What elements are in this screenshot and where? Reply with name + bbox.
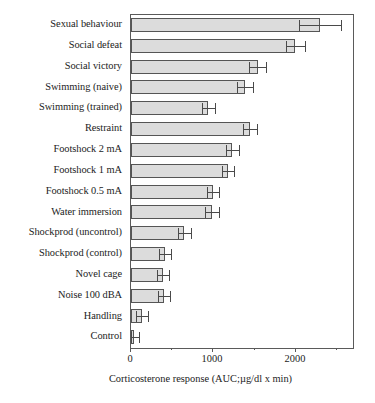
x-axis-ticklabel-2000: 2000	[285, 354, 306, 364]
bar-row	[131, 182, 353, 203]
error-bar-cap-upper	[191, 228, 192, 239]
bar-row	[131, 306, 353, 327]
y-axis-category-labels: Sexual behaviour Social defeat Social vi…	[0, 14, 126, 347]
error-bar-cap-upper	[148, 311, 149, 322]
error-bar-cap-lower	[159, 249, 160, 260]
bar	[131, 101, 208, 115]
bar-row	[131, 265, 353, 286]
bar-row	[131, 98, 353, 119]
error-bar-cap-lower	[178, 228, 179, 239]
error-bar-cap-upper	[139, 332, 140, 343]
x-axis-line	[130, 348, 353, 349]
y-axis-label-9: Water immersion	[0, 201, 126, 222]
x-axis-tick-minor-500	[171, 348, 172, 350]
x-axis-tick-2000	[295, 348, 296, 352]
error-bar-cap-upper	[170, 291, 171, 302]
error-bar-cap-lower	[136, 311, 137, 322]
bar-row	[131, 140, 353, 161]
y-axis-label-15: Control	[0, 326, 126, 347]
bar	[131, 185, 213, 199]
bar-row	[131, 223, 353, 244]
error-bar-line	[202, 108, 215, 109]
plot-area	[130, 14, 354, 349]
error-bar-cap-lower	[286, 41, 287, 52]
bars-layer	[131, 15, 353, 348]
error-bar-line	[136, 316, 148, 317]
y-axis-label-11: Shockprod (control)	[0, 243, 126, 264]
error-bar-cap-upper	[239, 145, 240, 156]
bar	[131, 226, 184, 240]
x-axis-ticklabel-1000: 1000	[202, 354, 223, 364]
error-bar-cap-lower	[157, 270, 158, 281]
error-bar-cap-lower	[243, 124, 244, 135]
bar	[131, 164, 228, 178]
error-bar-line	[226, 150, 239, 151]
error-bar-cap-lower	[299, 20, 300, 31]
bar-row	[131, 36, 353, 57]
y-axis-label-1: Social defeat	[0, 35, 126, 56]
error-bar-line	[237, 87, 253, 88]
error-bar-cap-upper	[171, 249, 172, 260]
error-bar-line	[286, 46, 305, 47]
y-axis-label-0: Sexual behaviour	[0, 14, 126, 35]
x-axis-tick-0	[130, 348, 131, 352]
bar	[131, 39, 295, 53]
y-axis-label-5: Restraint	[0, 118, 126, 139]
bar-row	[131, 15, 353, 36]
bar	[131, 205, 212, 219]
y-axis-label-7: Footshock 1 mA	[0, 160, 126, 181]
error-bar-cap-lower	[202, 103, 203, 114]
bar	[131, 60, 258, 74]
bar	[131, 143, 232, 157]
error-bar-line	[158, 296, 170, 297]
x-axis-tick-minor-1500	[254, 348, 255, 350]
error-bar-line	[178, 233, 191, 234]
x-axis-tick-1000	[212, 348, 213, 352]
error-bar-cap-upper	[234, 166, 235, 177]
error-bar-line	[131, 337, 139, 338]
error-bar-line	[205, 212, 219, 213]
bar	[131, 18, 320, 32]
bar-row	[131, 244, 353, 265]
error-bar-line	[243, 129, 257, 130]
error-bar-cap-upper	[257, 124, 258, 135]
error-bar-cap-upper	[305, 41, 306, 52]
y-axis-label-13: Noise 100 dBA	[0, 285, 126, 306]
y-axis-label-2: Social victory	[0, 56, 126, 77]
error-bar-cap-lower	[158, 291, 159, 302]
error-bar-cap-lower	[222, 166, 223, 177]
error-bar-cap-upper	[215, 103, 216, 114]
y-axis-label-6: Footshock 2 mA	[0, 139, 126, 160]
x-axis-ticklabel-0: 0	[127, 354, 132, 364]
y-axis-label-12: Novel cage	[0, 264, 126, 285]
error-bar-line	[207, 192, 219, 193]
bar-row	[131, 119, 353, 140]
error-bar-cap-lower	[205, 207, 206, 218]
error-bar-cap-upper	[341, 20, 342, 31]
bar	[131, 122, 250, 136]
bar-row	[131, 327, 353, 348]
bar-row	[131, 161, 353, 182]
error-bar-line	[157, 275, 169, 276]
error-bar-line	[159, 254, 171, 255]
bar	[131, 80, 245, 94]
bar-row	[131, 57, 353, 78]
error-bar-cap-lower	[237, 82, 238, 93]
error-bar-cap-lower	[207, 187, 208, 198]
error-bar-cap-upper	[266, 62, 267, 73]
bar-row	[131, 286, 353, 307]
error-bar-line	[299, 25, 342, 26]
error-bar-line	[249, 67, 265, 68]
y-axis-label-3: Swimming (naive)	[0, 76, 126, 97]
y-axis-label-8: Footshock 0.5 mA	[0, 181, 126, 202]
bar-row	[131, 77, 353, 98]
error-bar-cap-upper	[169, 270, 170, 281]
x-axis-title: Corticosterone response (AUC;µg/dl x min…	[0, 374, 375, 384]
error-bar-line	[222, 171, 234, 172]
error-bar-cap-lower	[249, 62, 250, 73]
bar-chart: Sexual behaviour Social defeat Social vi…	[0, 0, 375, 403]
error-bar-cap-upper	[219, 187, 220, 198]
error-bar-cap-upper	[219, 207, 220, 218]
bar-row	[131, 202, 353, 223]
x-axis-tick-minor-2500	[336, 348, 337, 350]
